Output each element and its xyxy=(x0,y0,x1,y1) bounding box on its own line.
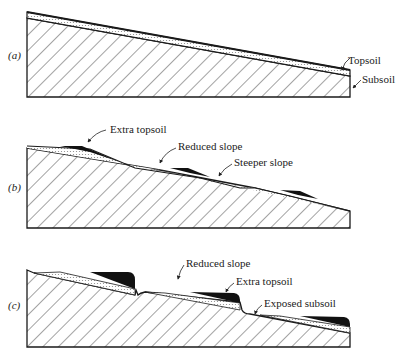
subsoil-arrow-icon xyxy=(353,80,361,88)
steeper-slope-arrow-icon xyxy=(219,164,232,176)
extra-topsoil-arrow-icon xyxy=(88,130,106,142)
extra-topsoil-label: Extra topsoil xyxy=(110,123,167,135)
panel-a: (a) Topsoil Subsoil xyxy=(8,12,395,97)
reduced-slope-arrow-icon xyxy=(160,148,176,163)
exposed-subsoil-label: Exposed subsoil xyxy=(264,297,336,309)
panel-a-label: (a) xyxy=(8,49,21,62)
steeper-slope-label: Steeper slope xyxy=(234,156,293,168)
subsoil-region xyxy=(27,18,350,97)
subsoil-region xyxy=(27,148,350,228)
panel-c-label: (c) xyxy=(8,299,21,312)
reduced-slope-label: Reduced slope xyxy=(178,140,243,152)
panel-b-label: (b) xyxy=(8,181,21,194)
extra-topsoil-arrow-icon xyxy=(226,283,234,292)
reduced-slope-arrow-icon xyxy=(178,265,184,279)
subsoil-label: Subsoil xyxy=(362,73,395,85)
panel-c: (c) Reduced slope Extra topsoil Exposed … xyxy=(8,257,350,347)
panel-b: (b) Extra topsoil Reduced slope Steeper … xyxy=(8,123,350,228)
extra-topsoil-label: Extra topsoil xyxy=(236,275,293,287)
reduced-slope-label: Reduced slope xyxy=(186,257,251,269)
exposed-subsoil-arrow-icon xyxy=(255,305,262,314)
soil-profile-diagram: (a) Topsoil Subsoil (b) Extra topsoil Re… xyxy=(0,0,397,357)
topsoil-label: Topsoil xyxy=(348,54,381,66)
